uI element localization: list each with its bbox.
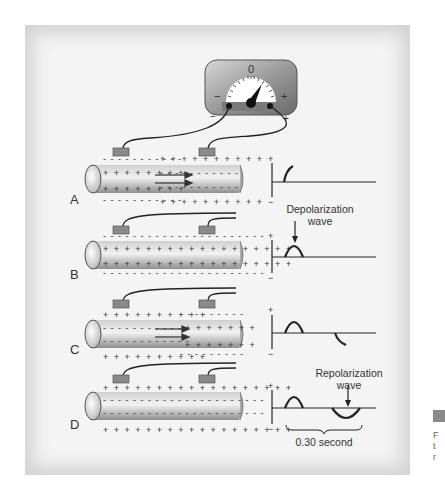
duration-label: 0.30 second — [295, 436, 352, 448]
trace-plus-label: + — [268, 381, 273, 391]
wires-b — [123, 213, 236, 226]
terminal-minus-label: − — [210, 111, 216, 122]
ecg-diagram: 0 − + − + - - - - - - - - - - - + + + + … — [0, 0, 445, 489]
panel-a: - - - - - - - - - - - + + + + + + + + + … — [70, 148, 264, 207]
trace-a: + − — [268, 154, 376, 207]
svg-text:- - - - - - - - - - - - - - -: - - - - - - - - - - - - - - - - - - - - … — [103, 231, 264, 241]
electrode-right — [199, 300, 215, 308]
repolarization-label: Repolarization — [315, 367, 382, 379]
svg-text:- - - - - - - - -: - - - - - - - - - — [180, 309, 244, 319]
meter-zero-label: 0 — [248, 63, 254, 75]
svg-text:+ + + + + + + + + + + + + + +: + + + + + + + + + + + + + + + + + + — [103, 244, 293, 254]
meter-minus-label: − — [214, 90, 220, 102]
galvanometer: 0 − + − + — [205, 60, 297, 124]
electrode-left — [113, 375, 129, 383]
figure-root: 0 − + − + - - - - - - - - - - - + + + + … — [0, 0, 445, 489]
trace-plus-label: + — [268, 231, 273, 241]
svg-text:- - - - - - - - - - - -: - - - - - - - - - - - - — [103, 323, 189, 333]
svg-text:- - - - - - - - - - - - - - -: - - - - - - - - - - - - - - - - - - - - … — [103, 395, 264, 405]
svg-text:- - - - - - - - -: - - - - - - - - - — [180, 349, 244, 359]
svg-text:+ + + + + + + + + +: + + + + + + + + + + — [160, 154, 264, 164]
electrode-right — [199, 375, 215, 383]
arrow-down-icon — [345, 400, 351, 407]
trace-plus-label: + — [268, 305, 273, 315]
trace-minus-label: − — [268, 273, 273, 283]
depolarization-label: Depolarization — [286, 203, 353, 215]
svg-text:+ + + + + + + + + +: + + + + + + + + + + — [160, 197, 264, 207]
trace-c: + − — [268, 305, 376, 359]
depolarization-label-wave: wave — [307, 215, 333, 227]
wires-c — [123, 288, 236, 301]
svg-text:+ + + + + + +: + + + + + + + — [185, 323, 256, 333]
panel-label-a: A — [70, 192, 79, 207]
trace-d: Repolarization wave 0.30 second + − — [268, 367, 383, 448]
trace-minus-label: − — [268, 197, 273, 207]
panel-label-b: B — [70, 267, 79, 282]
svg-text:- - - - - - - - - - - - - - -: - - - - - - - - - - - - - - - - - - - - … — [103, 408, 264, 418]
trace-b: Depolarization wave + − — [268, 203, 376, 283]
svg-text:+ + + + + + + + + + + + + + +: + + + + + + + + + + + + + + + + + + — [103, 425, 293, 435]
trace-plus-label: + — [268, 154, 273, 164]
panel-label-c: C — [70, 342, 79, 357]
panel-d: + + + + + + + + + + + + + + + + + + - - … — [70, 375, 293, 435]
cropped-caption-marker — [433, 410, 445, 422]
trace-minus-label: − — [268, 349, 273, 359]
arrow-down-icon — [292, 236, 298, 243]
svg-text:- - - - - - - - - - - - - - -: - - - - - - - - - - - - - - - - - - - - … — [103, 268, 264, 278]
wires-d — [123, 363, 236, 376]
panel-b: - - - - - - - - - - - - - - - - - - - - … — [70, 226, 293, 282]
electrode-left — [113, 300, 129, 308]
panel-c: + + + + + + + + + + - - - - - - - - - - … — [70, 300, 256, 362]
trace-minus-label: − — [268, 424, 273, 434]
cropped-caption-text: Ftr — [433, 430, 445, 463]
meter-plus-label: + — [281, 90, 287, 102]
svg-text:- - - - - - - - - - -: - - - - - - - - - - - — [160, 168, 239, 178]
panel-label-d: D — [70, 417, 79, 432]
svg-text:+ + + + + + + + + + + + + + +: + + + + + + + + + + + + + + + + + + — [103, 383, 293, 393]
